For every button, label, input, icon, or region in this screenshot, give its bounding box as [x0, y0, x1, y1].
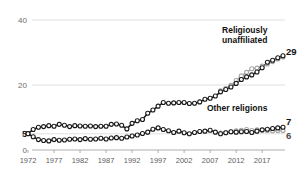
data-point-other_dark — [109, 136, 113, 140]
data-point-other_dark — [73, 137, 77, 141]
data-point-other_dark — [260, 128, 264, 132]
data-point-unaffiliated_light — [250, 67, 254, 71]
data-point-unaffiliated_dark — [78, 124, 82, 128]
data-point-unaffiliated_dark — [151, 108, 155, 112]
data-point-other_dark — [62, 138, 66, 142]
data-point-unaffiliated_dark — [62, 123, 66, 127]
x-tick-label-1987: 1987 — [98, 156, 115, 165]
x-tick-label-1972: 1972 — [20, 156, 37, 165]
data-point-other_dark — [52, 138, 56, 142]
annotation-unaffiliated: Religiously — [222, 25, 268, 35]
x-tick-label-2017: 2017 — [254, 156, 271, 165]
data-point-unaffiliated_dark — [276, 56, 280, 60]
data-point-other_dark — [234, 130, 238, 134]
data-point-unaffiliated_dark — [182, 101, 186, 105]
data-point-unaffiliated_dark — [114, 122, 118, 126]
data-point-unaffiliated_dark — [161, 101, 165, 105]
data-point-unaffiliated_dark — [255, 70, 259, 74]
data-point-other_dark — [130, 134, 134, 138]
end-label-unaffiliated_dark: 29 — [286, 46, 297, 57]
data-point-other_dark — [250, 130, 254, 134]
chart-container: 402050 197219771982198719921997200220072… — [0, 0, 307, 175]
data-point-other_dark — [57, 138, 61, 142]
data-point-unaffiliated_dark — [198, 100, 202, 104]
data-point-other_dark — [104, 137, 108, 141]
data-point-unaffiliated_dark — [239, 77, 243, 81]
data-point-unaffiliated_dark — [57, 122, 61, 126]
annotation-unaffiliated: unaffiliated — [222, 35, 267, 45]
data-point-unaffiliated_dark — [187, 102, 191, 106]
data-point-unaffiliated_dark — [120, 123, 124, 127]
data-point-other_dark — [99, 136, 103, 140]
data-point-other_dark — [213, 130, 217, 134]
data-point-other_dark — [167, 129, 171, 133]
data-point-unaffiliated_dark — [245, 75, 249, 79]
x-axis-labels-group: 1972197719821987199219972002200720122017 — [20, 156, 271, 165]
y-tick-label-20: 20 — [18, 81, 27, 90]
line-chart: 402050 197219771982198719921997200220072… — [0, 0, 307, 175]
data-point-unaffiliated_dark — [213, 94, 217, 98]
data-point-other_dark — [224, 131, 228, 135]
data-point-other_dark — [156, 126, 160, 130]
data-point-unaffiliated_dark — [250, 73, 254, 77]
data-point-unaffiliated_dark — [167, 101, 171, 105]
data-point-other_dark — [114, 136, 118, 140]
x-tick-label-1997: 1997 — [150, 156, 167, 165]
data-point-unaffiliated_dark — [104, 124, 108, 128]
x-tick-marks-group — [28, 150, 262, 153]
data-point-other_dark — [172, 130, 176, 134]
x-tick-label-2002: 2002 — [176, 156, 193, 165]
data-point-unaffiliated_dark — [31, 128, 35, 132]
data-point-unaffiliated_dark — [36, 125, 40, 129]
data-point-other_dark — [47, 139, 51, 143]
data-point-unaffiliated_dark — [146, 111, 150, 115]
data-point-other_dark — [135, 133, 139, 137]
data-point-other_dark — [177, 129, 181, 133]
x-tick-label-1982: 1982 — [72, 156, 89, 165]
data-point-unaffiliated_dark — [135, 119, 139, 123]
data-point-unaffiliated_dark — [224, 88, 228, 92]
data-point-unaffiliated_dark — [88, 124, 92, 128]
data-point-other_dark — [193, 130, 197, 134]
data-point-unaffiliated_dark — [281, 54, 285, 58]
y-tick-label-0: 0 — [23, 146, 28, 155]
data-point-other_dark — [229, 130, 233, 134]
data-point-unaffiliated_dark — [172, 101, 176, 105]
data-point-other_dark — [161, 128, 165, 132]
data-point-other_dark — [146, 130, 150, 134]
data-point-other_dark — [187, 132, 191, 136]
x-tick-label-2012: 2012 — [228, 156, 245, 165]
data-point-other_dark — [265, 127, 269, 131]
annotation-other: Other religions — [207, 103, 268, 113]
data-point-unaffiliated_dark — [177, 101, 181, 105]
data-point-unaffiliated_dark — [265, 60, 269, 64]
data-point-other_dark — [281, 125, 285, 129]
data-point-other_dark — [78, 138, 82, 142]
data-point-unaffiliated_light — [245, 70, 249, 74]
data-point-other_dark — [26, 132, 30, 136]
data-point-other_dark — [83, 137, 87, 141]
data-point-unaffiliated_dark — [271, 58, 275, 62]
data-point-unaffiliated_dark — [208, 96, 212, 100]
data-point-other_dark — [42, 139, 46, 143]
data-point-other_dark — [88, 137, 92, 141]
data-point-unaffiliated_dark — [203, 97, 207, 101]
data-point-other_dark — [203, 129, 207, 133]
y-tick-label-40: 40 — [18, 16, 27, 25]
data-point-unaffiliated_dark — [109, 122, 113, 126]
data-point-unaffiliated_dark — [219, 90, 223, 94]
data-point-other_dark — [208, 128, 212, 132]
data-point-unaffiliated_dark — [229, 85, 233, 89]
data-point-unaffiliated_dark — [47, 124, 51, 128]
data-point-unaffiliated_dark — [156, 104, 160, 108]
data-point-unaffiliated_dark — [68, 125, 72, 129]
data-point-unaffiliated_dark — [140, 117, 144, 121]
data-point-other_dark — [120, 136, 124, 140]
data-point-other_dark — [245, 129, 249, 133]
x-tick-label-1992: 1992 — [124, 156, 141, 165]
data-point-other_dark — [151, 127, 155, 131]
data-point-unaffiliated_dark — [42, 125, 46, 129]
x-tick-label-2007: 2007 — [202, 156, 219, 165]
data-point-unaffiliated_dark — [234, 81, 238, 85]
data-point-unaffiliated_dark — [130, 121, 134, 125]
